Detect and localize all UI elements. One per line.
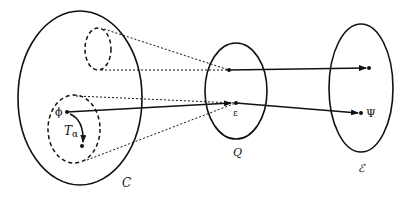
psi-point (359, 111, 363, 115)
phi-point (65, 110, 69, 114)
psi-label: Ψ (366, 107, 376, 120)
e-upper-point (367, 66, 371, 70)
set-c-label: C (122, 176, 131, 190)
map-arrows (67, 68, 366, 142)
flow-label-sub: α (72, 129, 78, 139)
epsilon-point (234, 101, 238, 105)
epsilon-label: ε (233, 108, 238, 118)
set-q (205, 43, 267, 139)
set-e (329, 24, 393, 152)
orbit-end-point (80, 144, 84, 148)
set-e-label: ℰ (358, 162, 366, 175)
set-q-label: Q (233, 146, 242, 159)
q-upper-point (227, 68, 231, 72)
upper-subset-region (85, 28, 111, 70)
projection-lines (76, 29, 236, 160)
set-c (18, 11, 142, 185)
diagram-canvas: ϕ T α ε Ψ C Q ℰ (0, 0, 407, 197)
points (65, 66, 371, 148)
phi-label: ϕ (55, 106, 63, 119)
